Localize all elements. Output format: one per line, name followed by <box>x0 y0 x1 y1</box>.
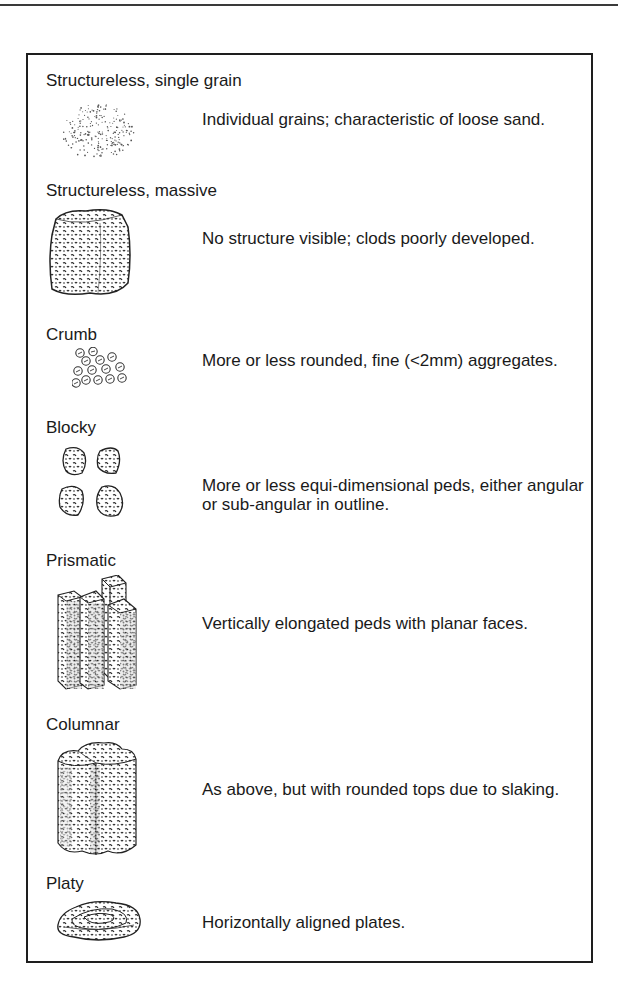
entry-description-blocky: More or less equi-dimensional peds, eith… <box>202 476 587 514</box>
entry-description-platy: Horizontally aligned plates. <box>202 913 587 932</box>
entry-label-crumb: Crumb <box>46 325 97 345</box>
entry-description-single-grain: Individual grains; characteristic of loo… <box>202 110 587 129</box>
entry-description-massive: No structure visible; clods poorly devel… <box>202 229 587 248</box>
prismatic-peds-icon <box>52 575 144 690</box>
entry-label-prismatic: Prismatic <box>46 551 116 571</box>
soil-structure-table: Structureless, single grain Individual g… <box>26 53 593 963</box>
entry-description-crumb: More or less rounded, fine (<2mm) aggreg… <box>202 351 587 370</box>
crumb-aggregates-icon <box>72 347 130 393</box>
platy-plates-icon <box>54 897 144 941</box>
entry-description-columnar: As above, but with rounded tops due to s… <box>202 780 587 799</box>
entry-label-massive: Structureless, massive <box>46 181 217 201</box>
entry-label-columnar: Columnar <box>46 715 120 735</box>
entry-label-single-grain: Structureless, single grain <box>46 71 242 91</box>
top-rule-divider <box>0 4 618 6</box>
entry-description-prismatic: Vertically elongated peds with planar fa… <box>202 614 587 633</box>
massive-clod-icon <box>46 205 136 301</box>
blocky-peds-icon <box>56 445 136 525</box>
columnar-peds-icon <box>52 739 144 859</box>
single-grain-dots-icon <box>58 101 138 163</box>
entry-label-blocky: Blocky <box>46 418 96 438</box>
entry-label-platy: Platy <box>46 874 84 894</box>
